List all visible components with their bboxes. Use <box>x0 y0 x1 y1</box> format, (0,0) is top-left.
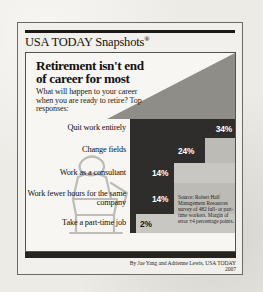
bar-value: 14% <box>152 194 168 204</box>
masthead-brand: USA TODAY Snapshots <box>25 35 144 49</box>
bar-label: Take a part-time job <box>26 214 130 233</box>
bar-value: 24% <box>178 146 194 156</box>
bar-value: 34% <box>216 124 232 134</box>
bar-label: Work fewer hours for the same company <box>26 183 130 214</box>
bar-fill <box>130 214 136 233</box>
bar-value: 2% <box>140 219 152 229</box>
snapshot-page: USA TODAY Snapshots® Retirement isn't en… <box>0 0 263 292</box>
table-row: Quit work entirely 34% <box>26 119 236 138</box>
chart-subhead: What will happen to your career when you… <box>36 88 144 114</box>
chart-headline: Retirement isn't end of career for most <box>36 59 154 86</box>
table-row: Work as a consultant 14% <box>26 163 236 183</box>
table-row: Change fields 24% <box>26 138 236 163</box>
byline-year: 2007 <box>225 266 236 272</box>
bar-track: 34% <box>130 119 236 138</box>
source-note: Source: Robert Half Management Resources… <box>178 194 234 224</box>
bar-label: Change fields <box>26 138 130 163</box>
bar-track: 14% <box>130 163 236 183</box>
masthead-rule <box>25 30 235 33</box>
masthead-title: USA TODAY Snapshots® <box>25 35 237 50</box>
bottom-band <box>25 252 236 258</box>
chart-panel: Retirement isn't end of career for most … <box>25 52 236 252</box>
bar-label: Quit work entirely <box>26 119 130 138</box>
bar-label: Work as a consultant <box>26 163 130 183</box>
bar-value: 14% <box>152 168 168 178</box>
bar-track: 24% <box>130 138 236 163</box>
byline: By Jae Yang and Adrienne Lewis, USA TODA… <box>60 260 236 273</box>
byline-text: By Jae Yang and Adrienne Lewis, USA TODA… <box>130 260 236 266</box>
registered-mark-icon: ® <box>144 35 149 43</box>
